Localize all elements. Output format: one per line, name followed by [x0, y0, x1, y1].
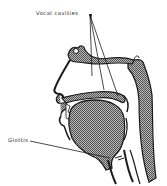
pharyngeal-wall — [128, 60, 156, 182]
leader-line-pharynx — [90, 15, 118, 96]
label-vocal-cavities: Vocal cavities — [36, 11, 78, 16]
label-glottis: Glottis — [8, 138, 28, 143]
nasal-roof — [68, 46, 134, 64]
vocal-folds — [115, 156, 124, 160]
tongue — [69, 100, 125, 170]
vocal-tract-diagram — [0, 0, 167, 186]
nose-outline — [54, 60, 70, 98]
nasal-concha — [74, 49, 79, 54]
leader-line-oral — [90, 15, 104, 90]
